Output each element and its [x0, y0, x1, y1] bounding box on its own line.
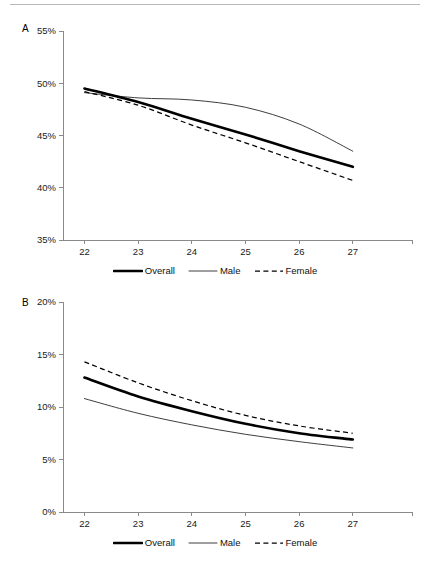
panel-a-plot: 35%40%45%50%55%222324252627: [0, 14, 430, 264]
x-tick-label: 22: [79, 246, 90, 257]
series-line-female: [84, 362, 352, 433]
legend-label: Female: [286, 266, 318, 276]
chart-panel-b: B 0%5%10%15%20%222324252627 OverallMaleF…: [0, 288, 430, 565]
x-tick-label: 24: [187, 246, 198, 257]
legend-entry-female: Female: [254, 538, 318, 548]
y-tick-label: 5%: [42, 454, 56, 465]
x-tick-label: 27: [348, 518, 359, 529]
legend-swatch-female-icon: [254, 266, 284, 276]
legend-swatch-male-icon: [188, 538, 218, 548]
legend-swatch-male-icon: [188, 266, 218, 276]
series-line-male: [84, 93, 352, 152]
panel-a-legend: OverallMaleFemale: [0, 266, 430, 276]
x-tick-label: 27: [348, 246, 359, 257]
x-tick-label: 26: [294, 246, 305, 257]
y-tick-label: 35%: [37, 234, 57, 245]
x-tick-label: 23: [133, 246, 144, 257]
header-rule: [10, 4, 420, 5]
y-tick-label: 45%: [37, 130, 57, 141]
legend-entry-overall: Overall: [113, 266, 175, 276]
chart-panel-a: A 35%40%45%50%55%222324252627 OverallMal…: [0, 14, 430, 290]
legend-label: Female: [286, 538, 318, 548]
legend-swatch-overall-icon: [113, 266, 143, 276]
y-tick-label: 20%: [37, 296, 57, 307]
legend-entry-overall: Overall: [113, 538, 175, 548]
x-tick-label: 22: [79, 518, 90, 529]
legend-label: Overall: [145, 538, 175, 548]
x-tick-label: 25: [240, 518, 251, 529]
series-line-female: [84, 92, 352, 181]
legend-label: Male: [220, 538, 241, 548]
figure-root: A 35%40%45%50%55%222324252627 OverallMal…: [0, 0, 430, 565]
legend-label: Overall: [145, 266, 175, 276]
legend-entry-female: Female: [254, 266, 318, 276]
x-tick-label: 26: [294, 518, 305, 529]
y-tick-label: 0%: [42, 506, 56, 517]
x-tick-label: 24: [187, 518, 198, 529]
y-tick-label: 55%: [37, 25, 57, 36]
panel-b-plot: 0%5%10%15%20%222324252627: [0, 288, 430, 538]
y-tick-label: 10%: [37, 401, 57, 412]
legend-entry-male: Male: [188, 266, 241, 276]
series-line-overall: [84, 88, 352, 166]
x-tick-label: 23: [133, 518, 144, 529]
legend-label: Male: [220, 266, 241, 276]
y-tick-label: 15%: [37, 349, 57, 360]
legend-entry-male: Male: [188, 538, 241, 548]
x-tick-label: 25: [240, 246, 251, 257]
y-tick-label: 40%: [37, 182, 57, 193]
legend-swatch-overall-icon: [113, 538, 143, 548]
panel-b-legend: OverallMaleFemale: [0, 538, 430, 548]
y-tick-label: 50%: [37, 78, 57, 89]
legend-swatch-female-icon: [254, 538, 284, 548]
series-line-male: [84, 399, 352, 448]
